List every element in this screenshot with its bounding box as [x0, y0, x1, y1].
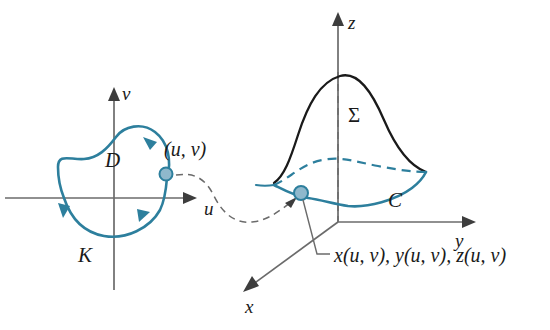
uv-plane-group: D K u v (u, v) — [5, 83, 214, 290]
surface-sigma-label: Σ — [348, 103, 360, 127]
curve-k-label: K — [77, 243, 93, 267]
curve-c-label: C — [388, 188, 403, 212]
z-axis-arrowhead — [332, 12, 344, 26]
v-axis-label: v — [122, 83, 131, 104]
curve-k-arrow-top — [143, 137, 157, 150]
curve-k-arrow-bottom — [137, 209, 150, 222]
parametric-surface-figure: D K u v (u, v) — [0, 0, 550, 330]
x-axis — [243, 222, 338, 292]
surface-point-leader-line — [303, 200, 330, 254]
surface-back-boundary-dashed — [274, 159, 426, 185]
uv-point-label: (u, v) — [164, 138, 207, 161]
x-axis-arrowhead — [243, 276, 259, 292]
v-axis — [108, 87, 120, 290]
surface-point-coordinates-label: x(u, v), y(u, v), z(u, v) — [333, 244, 506, 267]
y-axis-arrowhead — [462, 216, 476, 228]
figure-canvas: D K u v (u, v) — [0, 0, 550, 330]
xyz-space-group: Σ C z y x x(u, v), y(u, v), z(u, v) — [243, 12, 506, 317]
surface-point-marker — [294, 186, 308, 200]
y-axis — [338, 216, 476, 228]
z-axis — [332, 12, 344, 222]
surface-sigma-silhouette — [274, 75, 426, 183]
uv-point-marker — [160, 168, 173, 181]
region-d-label: D — [104, 148, 120, 172]
u-axis-arrowhead — [183, 192, 197, 204]
x-axis-label: x — [244, 296, 254, 317]
u-axis — [5, 192, 197, 204]
u-axis-label: u — [204, 198, 214, 219]
mapping-connector-arrowhead — [285, 197, 297, 208]
z-axis-label: z — [347, 12, 356, 33]
curve-c-left-tail — [256, 185, 274, 186]
v-axis-arrowhead — [108, 87, 120, 101]
